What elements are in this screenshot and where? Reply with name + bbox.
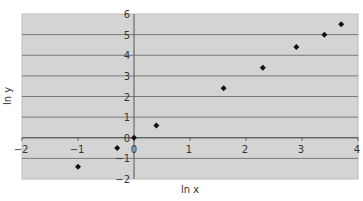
x-tick-label: 0 <box>131 144 137 155</box>
y-tick-label: 6 <box>124 9 130 20</box>
y-tick-label: 5 <box>124 30 130 41</box>
y-tick-label: 3 <box>124 71 130 82</box>
y-tick-label: 0 <box>124 133 130 144</box>
x-tick-label: 4 <box>354 144 360 155</box>
scatter-chart: −2−101234 −2−10123456 ln x ln y <box>0 0 363 201</box>
x-axis-label: ln x <box>181 184 199 195</box>
y-tick-label: 2 <box>124 92 130 103</box>
y-tick-label: −1 <box>115 153 130 164</box>
x-tick-label: 3 <box>298 144 304 155</box>
y-tick-label: 1 <box>124 112 130 123</box>
x-tick-label: −2 <box>14 144 29 155</box>
y-tick-label: −2 <box>115 174 130 185</box>
x-tick-label: 2 <box>242 144 248 155</box>
y-tick-label: 4 <box>124 50 130 61</box>
x-tick-label: −1 <box>70 144 85 155</box>
x-tick-label: 1 <box>186 144 192 155</box>
y-axis-label: ln y <box>2 87 13 105</box>
